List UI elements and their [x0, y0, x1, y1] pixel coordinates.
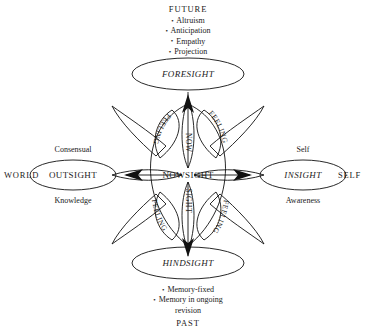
- feeling-label-bottom-left: FEELING: [150, 199, 169, 233]
- past-bullet-list: • Memory-fixed • Memory in ongoing revis…: [0, 285, 376, 316]
- center-sight-vertical: SIGHT: [183, 183, 192, 219]
- bullet-glyph: •: [153, 296, 155, 304]
- feeling-label-top-left: FEELING: [151, 112, 173, 145]
- past-bullet-text: Memory-fixed: [167, 285, 214, 294]
- list-item: • Projection: [0, 47, 376, 57]
- list-item: • Altruism: [0, 16, 376, 26]
- node-insight-label: INSIGHT: [260, 170, 346, 181]
- bullet-glyph: •: [171, 37, 173, 45]
- world-label: WORLD: [4, 170, 39, 181]
- center-nowsight-label: NOWSIGHT: [148, 170, 228, 181]
- future-bullet-text: Altruism: [176, 16, 204, 25]
- past-bullet-text: revision: [175, 306, 201, 315]
- past-bullet-continuation: revision: [0, 306, 376, 316]
- future-bullet-list: • Altruism • Anticipation • Empathy • Pr…: [0, 16, 376, 58]
- bullet-glyph: •: [162, 286, 164, 294]
- outsight-above-label: Consensual: [30, 145, 116, 155]
- future-bullet-text: Empathy: [176, 37, 205, 46]
- insight-below-label: Awareness: [260, 196, 346, 206]
- list-item: • Anticipation: [0, 26, 376, 36]
- bullet-glyph: •: [169, 48, 171, 56]
- list-item: • Memory in ongoing: [0, 295, 376, 305]
- self-label: SELF: [338, 170, 361, 181]
- past-heading: PAST: [0, 318, 376, 329]
- insight-above-label: Self: [260, 145, 346, 155]
- node-hindsight-label: HINDSIGHT: [132, 258, 244, 269]
- node-foresight-label: FORESIGHT: [132, 69, 244, 80]
- bullet-glyph: •: [165, 27, 167, 35]
- list-item: • Empathy: [0, 37, 376, 47]
- list-item: • Memory-fixed: [0, 285, 376, 295]
- past-bullet-text: Memory in ongoing: [159, 295, 223, 304]
- center-now-vertical: NOW: [183, 127, 192, 159]
- future-bullet-text: Anticipation: [171, 26, 211, 35]
- node-outsight-label: OUTSIGHT: [30, 170, 116, 181]
- future-heading: FUTURE: [0, 4, 376, 15]
- bullet-glyph: •: [171, 17, 173, 25]
- outsight-below-label: Knowledge: [30, 196, 116, 206]
- future-bullet-text: Projection: [174, 47, 207, 56]
